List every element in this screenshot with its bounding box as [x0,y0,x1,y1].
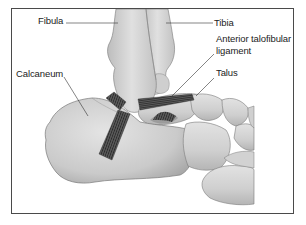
cuboid-bone [183,122,230,170]
label-fibula: Fibula [38,15,63,26]
cuneiform-2 [234,124,254,151]
label-atfl-line1: Anterior talofibular [216,33,291,44]
label-calcaneum: Calcaneum [16,68,63,79]
cuneiform-1 [222,98,248,126]
talus-leader [196,78,214,96]
label-tibia: Tibia [214,17,234,28]
label-talus: Talus [216,67,238,78]
label-atfl-line2: ligament [216,45,251,56]
metatarsal-5 [202,166,254,205]
navicular-bone [190,94,224,121]
atfl-leader [172,54,214,96]
